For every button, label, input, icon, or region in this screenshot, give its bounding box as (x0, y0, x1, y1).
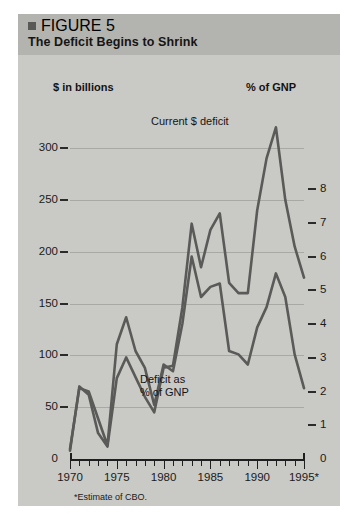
chart-plot-area: $ in billions % of GNP 50100150200250300… (18, 55, 340, 506)
annotation-current-dollar-deficit: Current $ deficit (151, 115, 229, 128)
y-axis-left-zero-label: 0 (18, 452, 58, 464)
line-deficit-pct-gnp (70, 257, 304, 449)
annotation-deficit-pct-gnp: Deficit as % of GNP (140, 373, 189, 399)
figure-panel: FIGURE 5 The Deficit Begins to Shrink $ … (18, 14, 340, 506)
figure-number-row: FIGURE 5 (28, 18, 340, 34)
chart-footnote: *Estimate of CBO. (74, 492, 147, 502)
figure-title-band: FIGURE 5 The Deficit Begins to Shrink (18, 14, 340, 55)
square-marker-icon (28, 22, 36, 30)
y-axis-right-zero-label: 0 (320, 452, 326, 464)
x-axis-line (70, 459, 304, 461)
figure-number: FIGURE 5 (41, 17, 115, 35)
figure-title: The Deficit Begins to Shrink (28, 35, 340, 49)
